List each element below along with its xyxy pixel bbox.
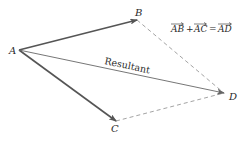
point-label-b: B bbox=[134, 7, 142, 18]
point-label-c: C bbox=[111, 123, 119, 134]
vector-addition-diagram: Resultant A B C D AB + AC = AD bbox=[0, 0, 249, 144]
vector-ab bbox=[19, 20, 137, 50]
equation-term-ac: AC bbox=[193, 24, 207, 34]
vector-equation: AB + AC = AD bbox=[170, 23, 232, 35]
dashed-edge-cd bbox=[116, 93, 224, 121]
equation-term-ab: AB bbox=[170, 24, 184, 34]
equation-equals: = bbox=[209, 24, 217, 34]
equation-plus: + bbox=[186, 24, 194, 34]
point-label-a: A bbox=[8, 45, 16, 56]
vector-ac bbox=[19, 50, 116, 121]
vector-ad-resultant bbox=[19, 50, 224, 93]
point-label-d: D bbox=[228, 91, 237, 102]
